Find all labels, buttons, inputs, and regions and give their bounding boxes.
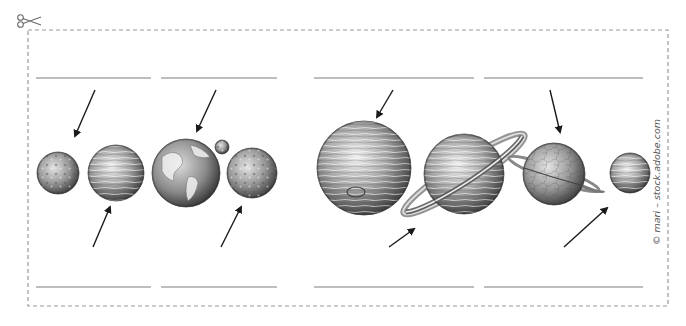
- arrow-to-jupiter: [377, 90, 393, 117]
- copyright-credit: © mari – stock.adobe.com: [651, 119, 662, 245]
- mercury-planet: [37, 152, 79, 194]
- moon-planet: [215, 140, 229, 154]
- arrow-to-neptune: [564, 208, 607, 247]
- earth-planet: [152, 139, 220, 207]
- arrow-to-mercury: [75, 90, 95, 136]
- arrow-to-venus: [93, 207, 110, 247]
- jupiter-planet: [317, 121, 411, 215]
- arrow-to-earth: [197, 90, 216, 131]
- worksheet: © mari – stock.adobe.com: [0, 0, 686, 326]
- uranus-planet: [507, 143, 604, 205]
- arrow-to-saturn: [389, 229, 414, 247]
- neptune-planet: [610, 153, 650, 193]
- mars-planet: [227, 148, 277, 198]
- scissors-icon: [18, 15, 41, 28]
- worksheet-artwork: [0, 0, 686, 326]
- saturn-planet: [397, 125, 531, 224]
- arrow-to-uranus: [550, 90, 560, 132]
- arrow-to-mars: [221, 207, 241, 247]
- venus-planet: [88, 145, 144, 201]
